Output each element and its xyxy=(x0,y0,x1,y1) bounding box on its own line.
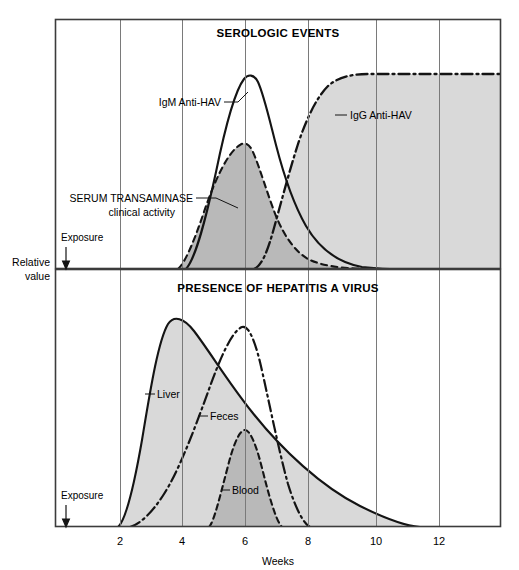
top-panel-title: SEROLOGIC EVENTS xyxy=(216,27,339,39)
x-tick-2: 2 xyxy=(117,535,123,547)
igg-label: IgG Anti-HAV xyxy=(350,109,412,121)
y-axis-label-line1: Relative xyxy=(12,256,50,268)
exposure-label-bottom: Exposure xyxy=(61,490,104,501)
figure-svg: SEROLOGIC EVENTS PRESENCE OF HEPATITIS A… xyxy=(0,0,519,570)
bottom-panel-title: PRESENCE OF HEPATITIS A VIRUS xyxy=(177,282,379,294)
hepatitis-a-figure: SEROLOGIC EVENTS PRESENCE OF HEPATITIS A… xyxy=(0,0,519,570)
liver-label: Liver xyxy=(157,388,180,400)
x-tick-8: 8 xyxy=(305,535,311,547)
x-tick-4: 4 xyxy=(179,535,185,547)
top-panel-areas xyxy=(178,74,501,269)
feces-label: Feces xyxy=(210,410,239,422)
exposure-label-top: Exposure xyxy=(61,232,104,243)
x-tick-12: 12 xyxy=(433,535,445,547)
x-axis-label: Weeks xyxy=(262,555,294,567)
exposure-arrows xyxy=(63,247,70,527)
blood-label: Blood xyxy=(232,484,259,496)
x-axis-ticks: 2 4 6 8 10 12 xyxy=(117,535,445,547)
x-tick-10: 10 xyxy=(370,535,382,547)
igg-area xyxy=(254,74,501,269)
igm-label: IgM Anti-HAV xyxy=(159,96,221,108)
serum-transaminase-label-line2: clinical activity xyxy=(108,206,175,218)
serum-transaminase-label-line1: SERUM TRANSAMINASE xyxy=(70,192,194,204)
x-tick-6: 6 xyxy=(242,535,248,547)
y-axis-label-line2: value xyxy=(25,270,50,282)
